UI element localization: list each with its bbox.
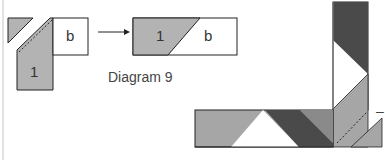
right-block-horizontal xyxy=(195,110,333,147)
side-mark: – xyxy=(376,104,384,118)
piece-b-before-label: b xyxy=(66,28,74,43)
piece-1-before-label: 1 xyxy=(30,64,38,79)
quilt-diagram xyxy=(0,0,385,160)
piece-1-after-label: 1 xyxy=(156,28,164,43)
right-arrow-icon xyxy=(98,29,130,35)
step-after-group xyxy=(133,18,237,55)
piece-b-after-label: b xyxy=(204,28,212,43)
right-block-vertical xyxy=(333,2,368,147)
step-before-group xyxy=(8,18,88,90)
diagram-caption: Diagram 9 xyxy=(108,70,173,84)
